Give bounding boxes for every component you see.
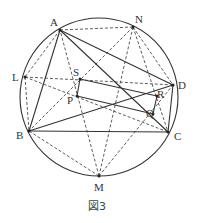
point-n-dot bbox=[132, 26, 135, 29]
point-c-label: C bbox=[174, 130, 181, 142]
point-m-label: M bbox=[94, 181, 104, 193]
segment-AL bbox=[25, 30, 60, 77]
point-b-label: B bbox=[16, 129, 23, 141]
point-p-dot bbox=[76, 95, 79, 98]
segment-MB bbox=[29, 131, 99, 176]
point-p-label: P bbox=[67, 94, 73, 106]
figure-caption: 図3 bbox=[88, 200, 106, 213]
point-b-dot bbox=[28, 130, 31, 133]
segment-LB bbox=[25, 77, 29, 131]
point-n-label: N bbox=[135, 13, 143, 25]
segment-BC bbox=[29, 131, 168, 132]
segment-LC bbox=[25, 77, 168, 132]
segment-CD bbox=[168, 85, 173, 132]
point-m-dot bbox=[98, 175, 101, 178]
point-l-dot bbox=[24, 76, 27, 79]
segment-AN bbox=[60, 27, 133, 30]
circumscribed-circle bbox=[20, 18, 178, 176]
point-a-label: A bbox=[50, 16, 58, 28]
point-d-dot bbox=[172, 84, 175, 87]
point-d-label: D bbox=[178, 79, 186, 91]
segment-NM bbox=[99, 27, 133, 176]
point-q-label: Q bbox=[146, 107, 154, 119]
point-l-label: L bbox=[12, 71, 19, 83]
point-c-dot bbox=[167, 131, 170, 134]
point-a-dot bbox=[59, 29, 62, 32]
segment-RS bbox=[80, 79, 157, 96]
point-r-label: R bbox=[157, 88, 165, 100]
point-s-label: S bbox=[73, 66, 79, 78]
geometry-figure: ANLDBCMSPRQ 図3 bbox=[0, 0, 199, 223]
